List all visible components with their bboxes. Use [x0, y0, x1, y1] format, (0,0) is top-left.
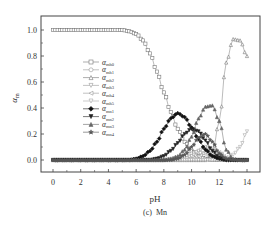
y-tick-label: 0.0 — [27, 156, 37, 165]
x-tick-label: 10 — [188, 178, 196, 187]
svg-text:αm: αm — [9, 93, 20, 103]
series-mh0 — [51, 28, 248, 161]
y-tick-label: 0.6 — [27, 78, 37, 87]
y-tick-label: 0.8 — [27, 52, 37, 61]
figure-caption: (c) Mn — [143, 208, 167, 217]
legend: αmh0αmh1αmh2αmh3αmh4αmh5αmn1αmn2αmn3αmn4 — [83, 58, 115, 138]
x-tick-label: 12 — [215, 178, 223, 187]
x-tick-label: 14 — [243, 178, 251, 187]
x-axis-label: pH — [150, 194, 162, 204]
y-tick-label: 0.2 — [27, 130, 37, 139]
x-tick-label: 2 — [79, 178, 83, 187]
y-tick-label: 0.4 — [27, 104, 37, 113]
speciation-chart: 0.00.20.40.60.81.0 02468101214 αmh0αmh1α… — [0, 0, 274, 227]
y-tick-label: 1.0 — [27, 26, 37, 35]
series-mh2 — [51, 38, 248, 162]
series-mn2 — [51, 127, 248, 161]
legend-item-mh0: αmh0 — [83, 58, 115, 68]
series-layer — [51, 28, 249, 162]
x-tick-label: 6 — [134, 178, 138, 187]
y-axis-label: αm — [9, 93, 20, 103]
x-tick-label: 4 — [106, 178, 110, 187]
x-tick-label: 8 — [162, 178, 166, 187]
x-tick-label: 0 — [51, 178, 55, 187]
